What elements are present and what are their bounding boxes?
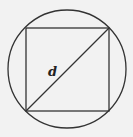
diagonal-line [26,28,109,111]
inscribed-square-diagram: d [0,0,133,137]
diagonal-label: d [48,64,57,79]
